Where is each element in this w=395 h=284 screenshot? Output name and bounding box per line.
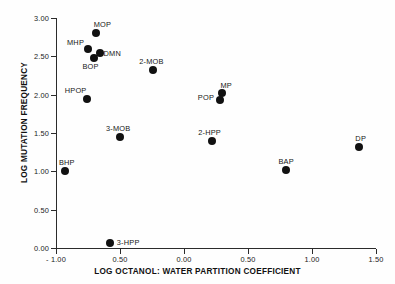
data-point	[84, 45, 92, 53]
y-axis-title: LOG MUTATION FREQUENCY	[20, 53, 29, 193]
data-point	[149, 66, 157, 74]
y-axis-tick	[51, 95, 56, 96]
data-point	[61, 167, 69, 175]
data-point-label: POP	[198, 93, 214, 102]
data-point	[92, 29, 100, 37]
x-axis-tick	[56, 249, 57, 254]
data-point-label: DP	[355, 134, 366, 143]
data-point	[208, 137, 216, 145]
x-axis-tick	[120, 249, 121, 254]
data-point-label: BAP	[278, 157, 293, 166]
x-axis-tick-label: 1.00	[292, 255, 332, 264]
x-axis-tick	[312, 249, 313, 254]
y-axis-tick-label: 0.00	[9, 244, 49, 253]
y-axis-tick	[51, 133, 56, 134]
data-point-label: 2-HPP	[198, 128, 221, 137]
x-axis-tick-label: 0.00	[164, 255, 204, 264]
x-axis-title: LOG OCTANOL: WATER PARTITION COEFFICIENT	[0, 267, 395, 276]
data-point-label: HPOP	[65, 86, 87, 95]
x-axis-tick-label: 0.50	[228, 255, 268, 264]
x-axis-tick-label: - 1.00	[36, 255, 76, 264]
x-axis-tick	[248, 249, 249, 254]
y-axis-tick-label: 3.00	[9, 14, 49, 23]
data-point	[355, 143, 363, 151]
data-point-label: 3-HPP	[117, 238, 140, 247]
y-axis-tick-label: 1.50	[9, 129, 49, 138]
data-point-label: MP	[220, 81, 232, 90]
data-point	[216, 96, 224, 104]
y-axis-tick-label: 2.50	[9, 52, 49, 61]
y-axis-tick-label: 2.00	[9, 91, 49, 100]
scatter-plot-figure: 0.000.501.001.502.002.503.00 - 1.000.500…	[0, 0, 395, 284]
x-axis-tick	[184, 249, 185, 254]
x-axis-line	[56, 248, 376, 249]
data-point-label: 3-MOB	[106, 124, 130, 133]
data-point-label: DMN	[104, 49, 121, 58]
data-point	[282, 166, 290, 174]
data-point	[106, 239, 114, 247]
data-point-label: BHP	[59, 158, 75, 167]
data-point	[90, 54, 98, 62]
data-point	[83, 95, 91, 103]
y-axis-tick	[51, 56, 56, 57]
y-axis-tick-label: 1.00	[9, 167, 49, 176]
x-axis-tick-label: 1.50	[356, 255, 395, 264]
x-axis-tick	[376, 249, 377, 254]
y-axis-tick	[51, 171, 56, 172]
data-point-label: MOP	[94, 20, 111, 29]
y-axis-tick-label: 0.50	[9, 206, 49, 215]
y-axis-line	[56, 18, 57, 249]
data-point	[116, 133, 124, 141]
y-axis-tick	[51, 18, 56, 19]
data-point-label: 2-MOB	[139, 57, 163, 66]
data-point-label: BOP	[82, 62, 98, 71]
data-point-label: MHP	[67, 38, 84, 47]
y-axis-tick	[51, 210, 56, 211]
x-axis-tick-label: 0.50	[100, 255, 140, 264]
